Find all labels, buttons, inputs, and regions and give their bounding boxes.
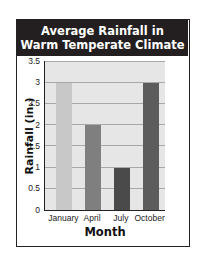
gridline (45, 61, 165, 62)
plot-area (44, 61, 165, 211)
bar-july (114, 168, 130, 210)
x-tick-label: January (48, 213, 78, 223)
chart-title-line-1: Average Rainfall in (17, 24, 188, 38)
chart-title: Average Rainfall in Warm Temperate Clima… (17, 20, 188, 56)
bar-october (143, 83, 159, 210)
x-tick-label: October (135, 213, 165, 223)
y-tick-label: 0.5 (20, 183, 40, 193)
y-axis-label: Rainfall (in.) (23, 98, 36, 175)
x-tick-label: July (113, 213, 128, 223)
bar-april (85, 125, 101, 210)
x-tick-label: April (84, 213, 101, 223)
bar-january (56, 83, 72, 210)
y-tick-label: 0 (20, 205, 40, 215)
y-tick-label: 3.5 (20, 56, 40, 66)
y-tick-label: 3 (20, 77, 40, 87)
x-axis-label: Month (84, 225, 125, 239)
chart-title-line-2: Warm Temperate Climate (17, 38, 188, 52)
